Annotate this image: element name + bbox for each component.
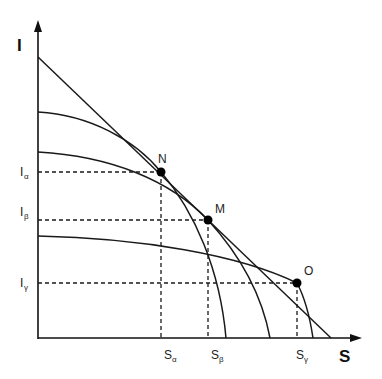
point-o bbox=[293, 279, 302, 288]
svg-text:β: β bbox=[24, 212, 29, 221]
frontier-diagram: I S N M O I α I β I γ S α S β S γ bbox=[0, 0, 382, 379]
x-tick-s-alpha: S α bbox=[164, 348, 177, 364]
curve-alpha bbox=[38, 112, 226, 338]
svg-text:γ: γ bbox=[24, 283, 28, 292]
x-tick-s-gamma: S γ bbox=[296, 348, 308, 364]
point-o-label: O bbox=[304, 264, 313, 278]
point-m bbox=[204, 216, 213, 225]
svg-text:α: α bbox=[24, 172, 29, 181]
svg-text:I: I bbox=[20, 205, 23, 219]
svg-text:I: I bbox=[20, 165, 23, 179]
point-n-label: N bbox=[158, 152, 167, 166]
y-tick-i-beta: I β bbox=[20, 205, 29, 221]
y-tick-i-alpha: I α bbox=[20, 165, 29, 181]
curve-gamma bbox=[38, 236, 313, 338]
tangent-line bbox=[38, 57, 331, 338]
point-n bbox=[157, 168, 166, 177]
svg-text:I: I bbox=[20, 276, 23, 290]
point-m-label: M bbox=[215, 202, 225, 216]
x-tick-s-beta: S β bbox=[211, 348, 224, 364]
svg-text:S: S bbox=[164, 348, 172, 362]
x-axis-arrow-icon bbox=[350, 334, 362, 342]
y-axis-arrow-icon bbox=[34, 20, 42, 32]
svg-text:γ: γ bbox=[304, 355, 308, 364]
x-axis-label: S bbox=[339, 347, 350, 366]
svg-text:S: S bbox=[211, 348, 219, 362]
svg-text:α: α bbox=[172, 355, 177, 364]
svg-text:S: S bbox=[296, 348, 304, 362]
svg-text:β: β bbox=[219, 355, 224, 364]
y-axis-label: I bbox=[17, 36, 22, 55]
y-tick-i-gamma: I γ bbox=[20, 276, 28, 292]
